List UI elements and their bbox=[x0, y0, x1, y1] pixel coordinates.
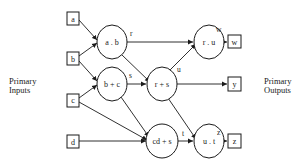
input-node-c: c bbox=[67, 94, 79, 107]
output-label-y: y bbox=[233, 80, 237, 89]
gate-label-rs: r + s bbox=[155, 80, 169, 89]
signal-label-t: t bbox=[182, 129, 185, 138]
edge-b-to-bc bbox=[79, 61, 97, 81]
edge-a-to-ab bbox=[79, 20, 97, 40]
gate-label-ru: r . u bbox=[203, 38, 216, 47]
gate-cds: cd + s bbox=[146, 124, 178, 158]
output-node-w: w bbox=[228, 35, 241, 48]
gate-rs: r + s bbox=[147, 67, 177, 101]
edge-s-to-cds bbox=[121, 97, 149, 137]
input-node-a: a bbox=[67, 12, 79, 25]
input-nodes: a b c d bbox=[67, 12, 79, 148]
signal-label-r: r bbox=[130, 29, 133, 38]
gate-label-cds: cd + s bbox=[152, 137, 171, 146]
gate-bc: b + c bbox=[97, 67, 127, 101]
gate-ab: a . b bbox=[97, 25, 127, 59]
output-node-y: y bbox=[228, 77, 241, 91]
output-label-z: z bbox=[233, 137, 237, 146]
logic-network-diagram: a b c d a . b b + c r + s cd bbox=[0, 0, 307, 165]
signal-label-u: u bbox=[177, 65, 181, 74]
edge-c-to-cds bbox=[79, 102, 147, 140]
signal-label-w: w bbox=[216, 25, 222, 34]
edge-u-to-ru bbox=[170, 44, 196, 70]
edge-b-to-ab bbox=[79, 43, 97, 56]
output-nodes: w y z bbox=[228, 35, 241, 148]
edge-c-to-bc bbox=[79, 85, 97, 98]
gate-label-bc: b + c bbox=[104, 80, 121, 89]
gate-nodes: a . b b + c r + s cd + s r . u u . t bbox=[97, 25, 224, 158]
gate-label-ab: a . b bbox=[105, 38, 119, 47]
signal-label-s: s bbox=[129, 71, 132, 80]
output-node-z: z bbox=[228, 134, 241, 148]
input-label-a: a bbox=[71, 15, 75, 24]
input-label-b: b bbox=[71, 55, 75, 64]
input-label-c: c bbox=[71, 96, 75, 105]
input-label-d: d bbox=[71, 138, 75, 147]
gate-label-ut: u . t bbox=[203, 137, 216, 146]
input-node-b: b bbox=[67, 52, 79, 65]
output-label-w: w bbox=[232, 38, 238, 47]
input-node-d: d bbox=[67, 135, 79, 148]
